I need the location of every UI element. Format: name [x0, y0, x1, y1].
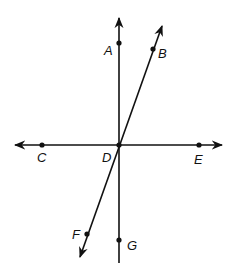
- label-e: E: [194, 152, 203, 167]
- label-d: D: [102, 150, 111, 165]
- point-c: [39, 142, 44, 147]
- label-f: F: [72, 227, 81, 242]
- point-e: [196, 142, 201, 147]
- label-c: C: [37, 150, 47, 165]
- label-a: A: [103, 43, 113, 58]
- slanted-line: [80, 26, 162, 257]
- point-a: [116, 40, 121, 45]
- geometry-diagram: A B C D E F G: [0, 0, 229, 263]
- label-g: G: [127, 238, 137, 253]
- point-g: [116, 237, 121, 242]
- point-b: [150, 46, 155, 51]
- label-b: B: [158, 46, 167, 61]
- point-f: [84, 231, 89, 236]
- point-d: [116, 142, 121, 147]
